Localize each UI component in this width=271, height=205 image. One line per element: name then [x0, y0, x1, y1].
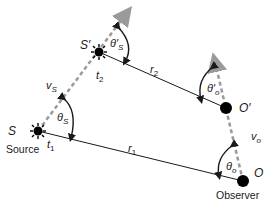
source-burst-icon — [30, 123, 46, 139]
label-t2: t2 — [96, 69, 104, 84]
r1-line — [38, 131, 243, 181]
r2-line — [99, 52, 226, 108]
label-r2: r2 — [150, 63, 159, 78]
source-prime-burst-icon — [91, 44, 107, 60]
label-observer: Observer — [216, 189, 260, 201]
label-s-prime: S′ — [80, 38, 91, 52]
label-vs: vS — [46, 79, 58, 94]
doppler-diagram: S Source t1 S′ t2 vS θS θ′S r1 r2 O′ vo … — [0, 0, 271, 205]
label-o: O — [254, 166, 263, 180]
source-velocity-line — [38, 14, 126, 131]
observer-dot-icon — [237, 175, 249, 187]
label-theta-o-prime: θ′o — [207, 82, 220, 97]
label-theta-o: θo — [226, 160, 237, 175]
label-o-prime: O′ — [239, 101, 251, 115]
diagram-canvas: S Source t1 S′ t2 vS θS θ′S r1 r2 O′ vo … — [0, 0, 271, 205]
label-t1: t1 — [47, 138, 55, 153]
label-r1: r1 — [128, 142, 137, 157]
label-theta-s: θS — [57, 111, 69, 126]
label-theta-s-prime: θ′S — [110, 37, 124, 52]
observer-prime-dot-icon — [220, 102, 232, 114]
label-vo: vo — [251, 130, 262, 145]
label-source: Source — [6, 143, 39, 155]
label-s: S — [8, 124, 16, 138]
